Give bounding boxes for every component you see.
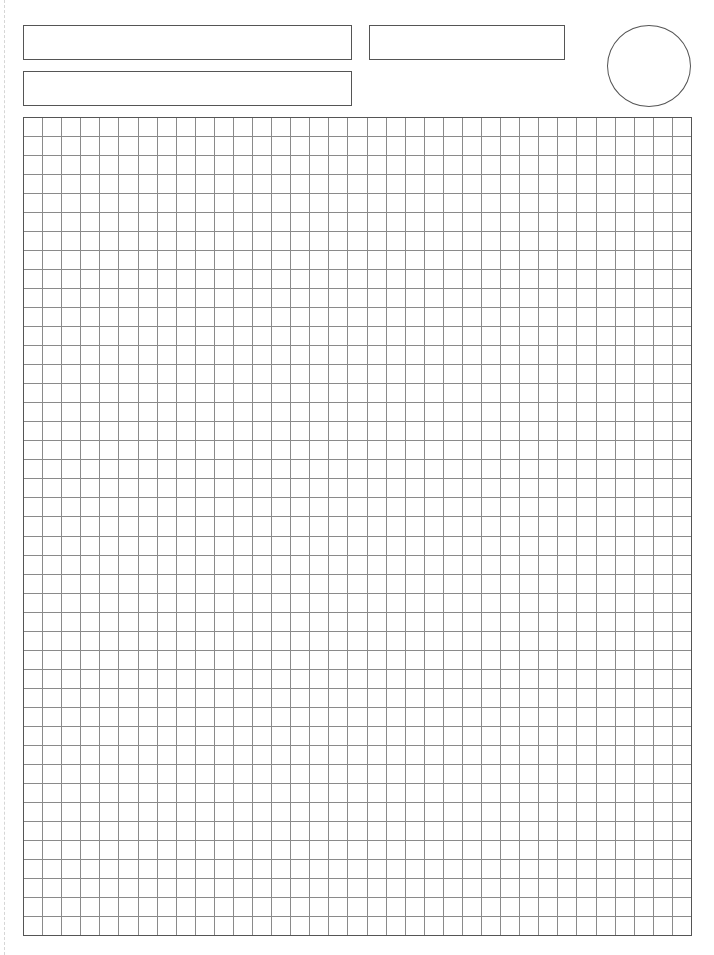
- header-circle-field[interactable]: [607, 25, 691, 107]
- fold-mark-dashed-line: [4, 0, 5, 955]
- header-field-box-3-label: [370, 26, 564, 59]
- header-field-box-3[interactable]: [369, 25, 565, 60]
- grid-lines: [23, 117, 692, 936]
- header-field-box-2[interactable]: [23, 71, 352, 106]
- header-field-box-2-label: [24, 72, 351, 105]
- header-field-box-1[interactable]: [23, 25, 352, 60]
- graph-paper-grid: [23, 117, 692, 936]
- header-field-box-1-label: [24, 26, 351, 59]
